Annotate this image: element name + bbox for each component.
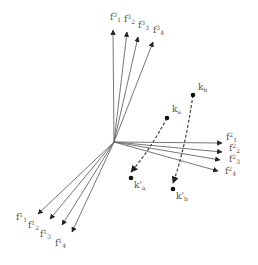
label-f1-2: f12 [28,219,39,231]
point-label-ka_prime: k'a [134,180,146,191]
vector-f1-4 [72,142,114,232]
vector-f1-2 [50,142,114,219]
point-ka [165,116,170,121]
point-label-ka: ka [172,104,181,115]
vector-diagram: f31f32f33f34f21f22f23f24f11f12f13f14kakb… [0,0,258,265]
label-f2-4: f24 [225,165,236,177]
vector-f2-3 [114,142,220,160]
label-f1-3: f13 [40,228,51,240]
label-f1-4: f14 [55,237,66,249]
vector-f2-4 [114,142,218,171]
point-label-kb: kb [198,82,207,93]
label-f3-1: f31 [110,11,121,23]
vector-f3-1 [113,30,114,142]
point-ka_prime [129,176,134,181]
label-f1-1: f11 [16,211,27,223]
point-kb_prime [171,187,176,192]
label-f3-4: f34 [153,24,164,36]
vector-f2-2 [114,142,222,152]
point-kb [191,93,196,98]
label-f3-3: f33 [138,19,149,31]
vector-f2-1 [114,142,222,143]
label-f2-3: f23 [229,153,240,165]
label-f3-2: f32 [124,13,135,25]
point-label-kb_prime: k'b [176,191,188,202]
